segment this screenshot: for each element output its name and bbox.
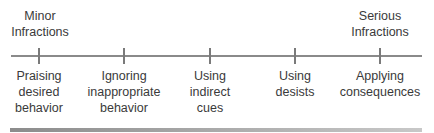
continuum-axis-line [11, 55, 422, 57]
tick-mark-3 [209, 48, 211, 64]
serious-label-line2: Infractions [330, 24, 430, 40]
bottom-divider-bar [10, 128, 422, 132]
tick-mark-2 [123, 48, 125, 64]
point-label-line: cues [160, 100, 260, 116]
tick-mark-5 [379, 48, 381, 64]
minor-label-line2: Infractions [0, 24, 90, 40]
point-label-consequences: Applying consequences [330, 68, 430, 100]
point-label-ignoring: Ignoring inappropriate behavior [74, 68, 174, 116]
point-label-line: Ignoring [74, 68, 174, 84]
point-label-line: Applying [330, 68, 430, 84]
minor-label-line1: Minor [0, 8, 90, 24]
point-label-line: behavior [74, 100, 174, 116]
tick-mark-4 [294, 48, 296, 64]
serious-label-line1: Serious [330, 8, 430, 24]
point-label-line: consequences [330, 84, 430, 100]
point-label-line: inappropriate [74, 84, 174, 100]
tick-mark-1 [38, 48, 40, 64]
serious-infractions-label: Serious Infractions [330, 8, 430, 40]
minor-infractions-label: Minor Infractions [0, 8, 90, 40]
